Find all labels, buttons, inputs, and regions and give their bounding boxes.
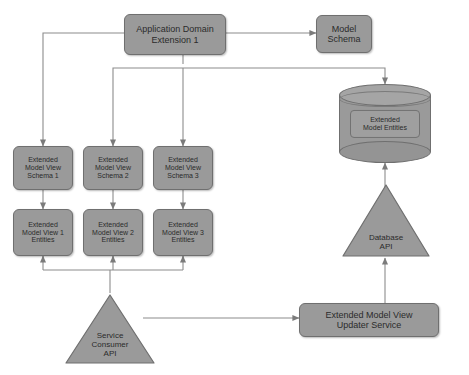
view-entities-1-label: Extended Model View 1 Entities	[19, 221, 67, 244]
edge-domain-to-schema-1	[43, 33, 124, 146]
view-entities-2-label: Extended Model View 2 Entities	[89, 221, 137, 244]
extended-model-entities-line1: Extended	[353, 115, 417, 123]
application-domain-extension-line2: Extension 1	[136, 35, 214, 45]
node-view-entities-3[interactable]: Extended Model View 3 Entities	[153, 209, 213, 256]
application-domain-extension-label: Application Domain Extension 1	[133, 24, 217, 44]
service-consumer-api-label: Service Consumer API	[64, 332, 156, 359]
view-schema-2-line1: Extended	[95, 156, 131, 164]
database-api-line2: API	[341, 243, 431, 252]
node-view-entities-2[interactable]: Extended Model View 2 Entities	[83, 209, 143, 256]
cylinder-ring	[339, 91, 431, 107]
view-entities-3-label: Extended Model View 3 Entities	[159, 221, 207, 244]
view-schema-2-line2: Model View	[95, 164, 131, 172]
updater-service-line2: Updater Service	[326, 320, 413, 330]
view-schema-1-line2: Model View	[25, 164, 61, 172]
edge-domain-to-entities-store	[183, 68, 385, 84]
updater-service-line1: Extended Model View	[326, 310, 413, 320]
view-entities-3-line2: Model View 3	[162, 229, 204, 237]
node-database-api[interactable]: Database API	[341, 183, 431, 258]
view-schema-2-line3: Schema 2	[95, 172, 131, 180]
view-entities-3-line3: Entities	[162, 236, 204, 244]
edge-domain-to-schema-2	[113, 68, 183, 146]
node-model-schema[interactable]: Model Schema	[316, 15, 372, 53]
node-updater-service[interactable]: Extended Model View Updater Service	[299, 303, 439, 337]
view-entities-2-line1: Extended	[92, 221, 134, 229]
view-entities-1-line3: Entities	[22, 236, 64, 244]
model-schema-line1: Model	[327, 24, 360, 34]
extended-model-entities-line2: Model Entities	[353, 124, 417, 132]
view-entities-2-line3: Entities	[92, 236, 134, 244]
node-view-schema-3[interactable]: Extended Model View Schema 3	[153, 146, 213, 190]
service-consumer-api-line3: API	[64, 350, 156, 359]
view-schema-3-line3: Schema 3	[165, 172, 201, 180]
view-schema-3-line1: Extended	[165, 156, 201, 164]
updater-service-label: Extended Model View Updater Service	[323, 310, 416, 330]
application-domain-extension-line1: Application Domain	[136, 24, 214, 34]
view-entities-2-line2: Model View 2	[92, 229, 134, 237]
node-service-consumer-api[interactable]: Service Consumer API	[64, 293, 156, 365]
diagram-canvas: Application Domain Extension 1 Model Sch…	[0, 0, 469, 375]
view-entities-3-line1: Extended	[162, 221, 204, 229]
view-schema-2-label: Extended Model View Schema 2	[92, 156, 134, 179]
database-api-label: Database API	[341, 234, 431, 252]
node-view-schema-1[interactable]: Extended Model View Schema 1	[13, 146, 73, 190]
node-view-schema-2[interactable]: Extended Model View Schema 2	[83, 146, 143, 190]
node-application-domain-extension[interactable]: Application Domain Extension 1	[124, 14, 226, 55]
cylinder-bottom	[339, 141, 431, 163]
model-schema-label: Model Schema	[324, 24, 363, 44]
extended-model-entities-label: Extended Model Entities	[350, 109, 420, 137]
view-entities-1-line2: Model View 1	[22, 229, 64, 237]
node-extended-model-entities-store[interactable]: Extended Model Entities	[339, 84, 431, 163]
view-schema-1-label: Extended Model View Schema 1	[22, 156, 64, 179]
view-entities-1-line1: Extended	[22, 221, 64, 229]
view-schema-1-line1: Extended	[25, 156, 61, 164]
view-schema-1-line3: Schema 1	[25, 172, 61, 180]
view-schema-3-line2: Model View	[165, 164, 201, 172]
model-schema-line2: Schema	[327, 34, 360, 44]
view-schema-3-label: Extended Model View Schema 3	[162, 156, 204, 179]
node-view-entities-1[interactable]: Extended Model View 1 Entities	[13, 209, 73, 256]
